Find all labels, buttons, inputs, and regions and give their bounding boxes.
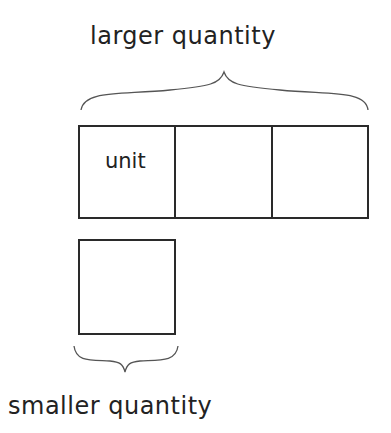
smaller-quantity-box [78, 239, 176, 335]
smaller-quantity-label: smaller quantity [8, 392, 212, 420]
top-brace-icon [81, 72, 368, 110]
unit-cell-3 [273, 127, 367, 217]
unit-cell-1: unit [80, 127, 176, 217]
unit-label: unit [105, 149, 146, 173]
larger-quantity-bar: unit [78, 125, 369, 219]
unit-cell-2 [176, 127, 272, 217]
bottom-brace-icon [74, 346, 178, 372]
